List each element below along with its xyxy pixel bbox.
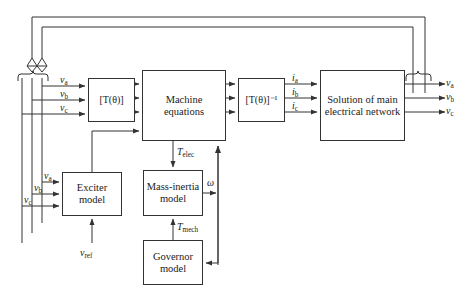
block-network-solution[interactable]: Solution of main electrical network bbox=[320, 70, 405, 141]
signal-label-t-elec: Telec bbox=[177, 147, 194, 159]
block-exciter-model[interactable]: Exciter model bbox=[62, 172, 122, 216]
signal-label-vc-input: vc bbox=[60, 103, 68, 115]
signal-label-ic: ic bbox=[292, 101, 298, 113]
signal-label-vc-exciter: vc bbox=[24, 195, 32, 207]
block-machine-equations[interactable]: Machine equations bbox=[142, 70, 226, 141]
block-network-solution-label: Solution of main electrical network bbox=[321, 94, 404, 118]
block-mass-inertia-model[interactable]: Mass-inertia model bbox=[143, 170, 203, 216]
block-exciter-model-label: Exciter model bbox=[63, 182, 121, 206]
block-governor-model[interactable]: Governor model bbox=[143, 240, 203, 285]
signal-label-ia: ia bbox=[292, 73, 298, 85]
block-mass-inertia-model-label: Mass-inertia model bbox=[144, 181, 202, 205]
signal-label-t-mech: Tmech bbox=[177, 222, 198, 234]
signal-label-va-input: va bbox=[60, 75, 68, 87]
signal-label-v-ref: vref bbox=[80, 248, 92, 260]
block-inverse-park-transform-label: [T(θ)]⁻¹ bbox=[243, 94, 279, 105]
signal-label-va-exciter: va bbox=[44, 171, 52, 183]
block-governor-model-label: Governor model bbox=[144, 251, 202, 275]
block-diagram: [T(θ)] Machine equations [T(θ)]⁻¹ Soluti… bbox=[0, 0, 460, 308]
signal-label-va-output: va bbox=[446, 78, 454, 90]
signal-label-ib: ib bbox=[292, 87, 298, 99]
block-park-transform[interactable]: [T(θ)] bbox=[88, 78, 135, 122]
signal-label-vb-input: vb bbox=[60, 89, 68, 101]
block-machine-equations-label: Machine equations bbox=[143, 94, 225, 118]
signal-label-omega: ω bbox=[207, 178, 214, 188]
block-park-transform-label: [T(θ)] bbox=[97, 94, 125, 105]
signal-label-vc-output: vc bbox=[446, 106, 454, 118]
block-inverse-park-transform[interactable]: [T(θ)]⁻¹ bbox=[238, 78, 285, 122]
signal-label-vb-exciter: vb bbox=[34, 183, 42, 195]
signal-label-vb-output: vb bbox=[446, 92, 454, 104]
diagram-wires bbox=[0, 0, 460, 308]
